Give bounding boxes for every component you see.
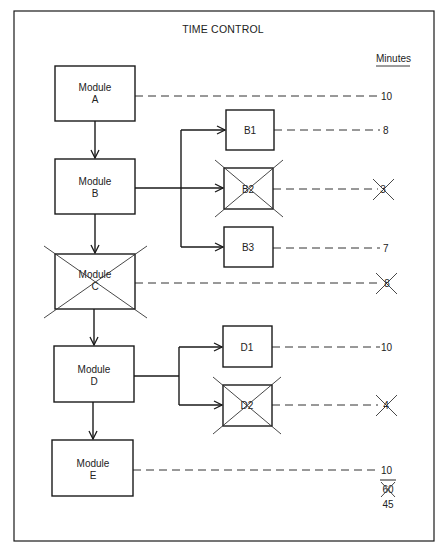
minutes-d2-crossed: 4: [376, 395, 397, 416]
module-e-id: E: [90, 470, 97, 481]
module-b: Module B: [55, 159, 135, 214]
time-control-diagram: TIME CONTROL Minutes Module A Module B: [0, 0, 445, 550]
submodule-b2: B2: [215, 160, 283, 217]
module-c: Module C: [44, 246, 147, 318]
b-branch-connector: [135, 130, 225, 247]
submodule-b3-label: B3: [242, 242, 255, 253]
module-b-id: B: [92, 188, 99, 199]
minutes-e: 10: [381, 465, 393, 476]
module-e-label: Module: [77, 458, 110, 469]
minutes-d1: 10: [381, 342, 393, 353]
submodule-d1: D1: [223, 326, 272, 367]
total-original-crossed: 60: [381, 482, 395, 497]
module-a-label: Module: [79, 82, 112, 93]
minutes-b2-crossed: 3: [373, 179, 394, 200]
module-e: Module E: [52, 440, 133, 496]
module-d-label: Module: [78, 364, 111, 375]
minutes-b1: 8: [383, 125, 389, 136]
minutes-a: 10: [381, 91, 393, 102]
submodule-b1: B1: [226, 110, 274, 150]
minutes-header: Minutes: [376, 53, 411, 64]
module-a: Module A: [55, 66, 135, 121]
diagram-title: TIME CONTROL: [182, 23, 264, 35]
module-d-id: D: [90, 376, 97, 387]
module-d: Module D: [54, 346, 134, 402]
module-b-label: Module: [79, 176, 112, 187]
module-a-id: A: [92, 94, 99, 105]
submodule-b1-label: B1: [244, 125, 257, 136]
minutes-c: 8: [384, 278, 390, 289]
submodule-d1-label: D1: [241, 342, 254, 353]
submodule-b3: B3: [224, 227, 273, 267]
d-branch-connector: [134, 347, 222, 405]
total-revised: 45: [382, 499, 394, 510]
minutes-b3: 7: [383, 243, 389, 254]
submodule-d2: D2: [213, 377, 281, 434]
minutes-c-crossed: 8: [376, 273, 397, 294]
